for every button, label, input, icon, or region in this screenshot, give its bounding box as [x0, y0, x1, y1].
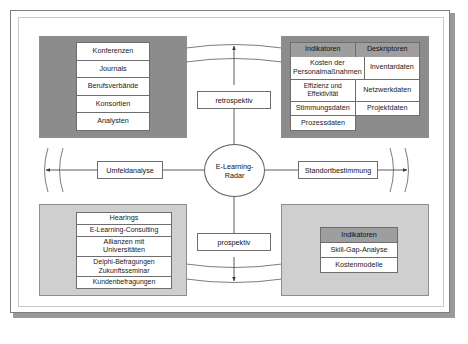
axis-label-umfeldanalyse: Umfeldanalyse	[97, 161, 163, 179]
table-bottom-right: Indikatoren Skill-Gap-Analyse Kostenmode…	[320, 227, 398, 273]
cell-konsortien: Konsortien	[77, 96, 149, 113]
table-row: Kundenbefragungen	[77, 277, 171, 288]
diagram-figure: Konferenzen Journals Berufsverbände Kons…	[0, 0, 468, 344]
column-header-indikatoren: Indikatoren	[291, 43, 356, 57]
cell-stimmungsdaten: Stimmungsdaten	[291, 102, 356, 116]
cell-allianzen-universitaeten: Allianzen mit Universitäten	[77, 237, 171, 257]
column-header-deskriptoren: Deskriptoren	[356, 43, 420, 57]
cell-prozessdaten: Prozessdaten	[290, 116, 356, 131]
table-row: Effizienz und Effektivität Netzwerkdaten	[290, 80, 420, 102]
cell-berufsverbaende: Berufsverbände	[77, 78, 149, 95]
table-top-right: Indikatoren Deskriptoren Kosten der Pers…	[290, 42, 420, 131]
cell-effizienz-effektivitaet: Effizienz und Effektivität	[291, 80, 356, 101]
table-row: Stimmungsdaten Projektdaten	[290, 102, 420, 117]
axis-label-retrospektiv: retrospektiv	[197, 91, 271, 109]
cell-konferenzen: Konferenzen	[77, 43, 149, 60]
cell-inventardaten: Inventardaten	[365, 57, 419, 79]
cell-projektdaten: Projektdaten	[356, 102, 420, 116]
center-node-e-learning-radar: E-Learning- Radar	[204, 144, 265, 197]
cell-e-learning-consulting: E-Learning-Consulting	[77, 225, 171, 236]
cell-hearings: Hearings	[77, 213, 171, 224]
cell-kostenmodelle: Kostenmodelle	[321, 258, 397, 272]
table-header-row: Indikatoren	[321, 228, 397, 243]
table-row: Delphi-Befragungen Zukunftsseminar	[77, 257, 171, 277]
table-row: Kosten der Personalmaßnahmen Inventardat…	[290, 57, 420, 80]
table-bottom-left: Hearings E-Learning-Consulting Allianzen…	[76, 212, 172, 289]
table-header-row: Indikatoren Deskriptoren	[290, 42, 420, 57]
column-header-indikatoren: Indikatoren	[321, 228, 397, 242]
table-row: Allianzen mit Universitäten	[77, 237, 171, 258]
table-row: Prozessdaten	[290, 116, 420, 131]
table-row: Konferenzen	[77, 43, 149, 61]
cell-analysten: Analysten	[77, 113, 149, 130]
axis-label-prospektiv: prospektiv	[197, 233, 271, 251]
table-row: Konsortien	[77, 96, 149, 114]
cell-skill-gap-analyse: Skill-Gap-Analyse	[321, 243, 397, 257]
table-row: E-Learning-Consulting	[77, 225, 171, 237]
cell-journals: Journals	[77, 61, 149, 78]
axis-label-standortbestimmung: Standortbestimmung	[298, 161, 378, 179]
cell-kosten-personalmassnahmen: Kosten der Personalmaßnahmen	[291, 57, 365, 79]
table-row: Skill-Gap-Analyse	[321, 243, 397, 258]
table-top-left: Konferenzen Journals Berufsverbände Kons…	[76, 42, 150, 131]
table-row: Analysten	[77, 113, 149, 130]
cell-empty	[356, 116, 420, 131]
table-row: Journals	[77, 61, 149, 79]
table-row: Hearings	[77, 213, 171, 225]
table-row: Kostenmodelle	[321, 258, 397, 272]
table-row: Berufsverbände	[77, 78, 149, 96]
cell-delphi-befragungen: Delphi-Befragungen Zukunftsseminar	[77, 257, 171, 276]
cell-kundenbefragungen: Kundenbefragungen	[77, 277, 171, 288]
cell-netzwerkdaten: Netzwerkdaten	[356, 80, 420, 101]
